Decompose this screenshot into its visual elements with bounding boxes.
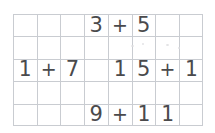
pencil-smudge <box>166 44 169 46</box>
worksheet-canvas: 3+51+715+19+11 <box>0 0 215 133</box>
pencil-smudge <box>178 47 180 49</box>
grid-paper-sheet: 3+51+715+19+11 <box>13 14 203 126</box>
smudge-layer <box>13 14 203 126</box>
pencil-smudge <box>142 43 144 45</box>
pencil-smudge <box>131 45 134 47</box>
